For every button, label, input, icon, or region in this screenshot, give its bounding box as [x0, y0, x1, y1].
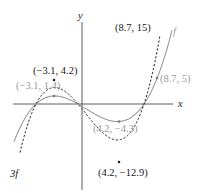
- graph: y x f 3f (−3.1, 1.4) (4.2, −4.3) (8.7, 5…: [0, 0, 203, 193]
- f-min-label: (4.2, −4.3): [93, 123, 138, 135]
- f-curve-label: f: [173, 26, 178, 37]
- 3f-point-label: (8.7, 15): [115, 22, 151, 34]
- x-axis-label: x: [177, 98, 183, 109]
- 3f-max-label: (−3.1, 4.2): [33, 65, 78, 77]
- f-point-dot: [156, 77, 159, 80]
- f-point-label: (8.7, 5): [160, 73, 191, 85]
- f-max-label: (−3.1, 1.4): [16, 80, 61, 92]
- f-max-dot: [53, 95, 56, 98]
- 3f-min-dot: [118, 161, 121, 164]
- curve-3f: [20, 35, 160, 152]
- y-axis-label: y: [77, 10, 83, 21]
- 3f-min-label: (4.2, −12.9): [98, 167, 148, 179]
- 3f-curve-label: 3f: [9, 168, 20, 179]
